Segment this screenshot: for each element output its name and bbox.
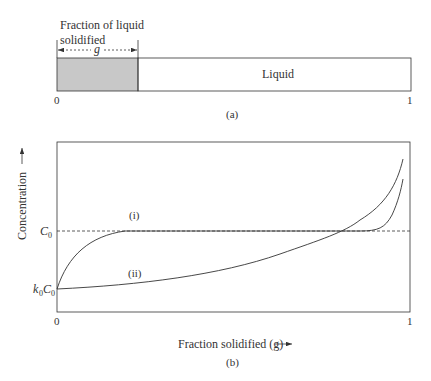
figure: Fraction of liquid solidified g Liquid 0…	[0, 0, 431, 381]
curve-ii-label: (ii)	[128, 267, 142, 280]
caption-a: (a)	[226, 108, 239, 121]
svg-text:Concentration: Concentration	[15, 172, 29, 240]
plot-frame	[57, 142, 410, 312]
tick-1-b: 1	[407, 315, 413, 327]
k0c0-tick-label: k 0 C 0	[33, 282, 55, 298]
svg-text:0: 0	[48, 231, 52, 240]
y-axis-label: Concentration	[15, 148, 29, 240]
panel-a: Fraction of liquid solidified g Liquid 0…	[54, 18, 413, 121]
c0-tick-label: C 0	[40, 224, 52, 240]
tick-0-b: 0	[54, 315, 60, 327]
panel-b: (i) (ii) C 0 k 0 C 0 Concentration 0 1 F…	[15, 142, 413, 369]
curve-i	[57, 179, 403, 289]
caption-b: (b)	[226, 356, 239, 369]
liquid-label: Liquid	[262, 67, 294, 81]
tick-1-a: 1	[407, 94, 413, 106]
svg-text:0: 0	[51, 289, 55, 298]
curve-i-label: (i)	[129, 209, 140, 222]
tick-0-a: 0	[54, 94, 60, 106]
g-label: g	[94, 42, 100, 56]
svg-text:Fraction solidified (g): Fraction solidified (g)	[178, 337, 283, 351]
curve-ii	[57, 159, 403, 289]
fraction-label-line1: Fraction of liquid	[60, 18, 144, 32]
solid-region	[57, 58, 138, 91]
x-axis-label: Fraction solidified (g)	[178, 337, 292, 351]
